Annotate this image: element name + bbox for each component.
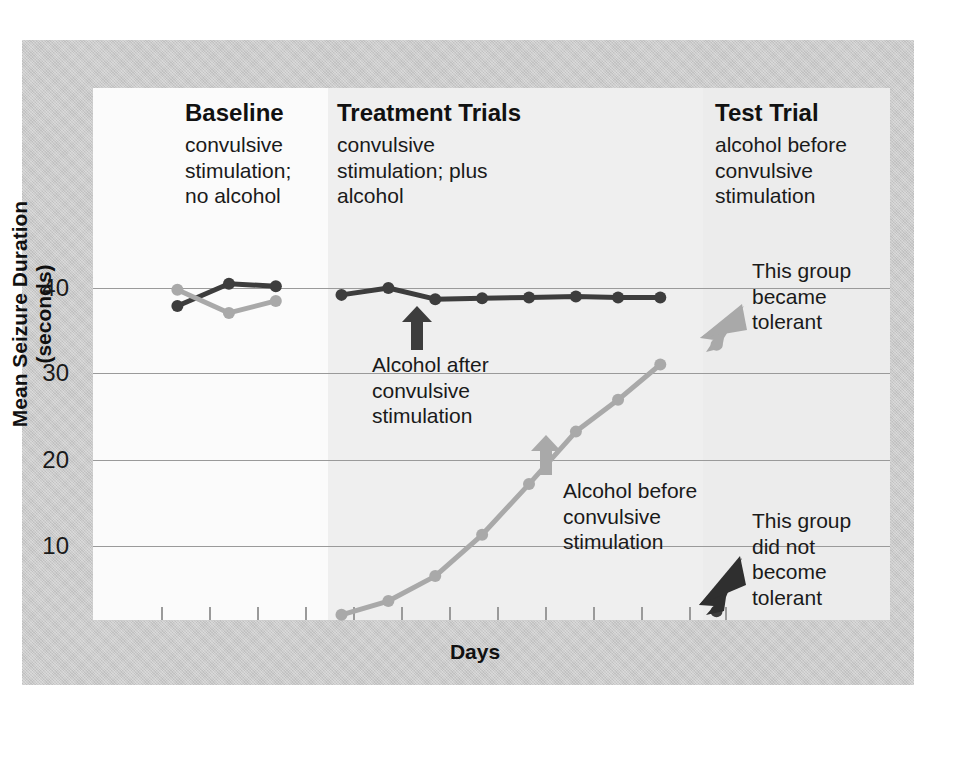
data-point	[270, 280, 282, 292]
data-point	[654, 359, 666, 371]
data-point	[612, 291, 624, 303]
annotation-line4: tolerant	[752, 585, 932, 611]
annotation-became-tolerant: This group became tolerant	[752, 258, 932, 335]
column-sub-line2: stimulation; plus	[337, 158, 567, 184]
column-sub-line3: alcohol	[337, 183, 567, 209]
y-axis-tick-labels: 40 30 20 10	[0, 88, 83, 620]
column-sub-line3: no alcohol	[185, 183, 325, 209]
data-point	[711, 339, 723, 351]
data-point	[270, 295, 282, 307]
y-tick-20: 20	[0, 448, 83, 472]
data-point	[171, 300, 183, 312]
chart-figure: Mean Seizure Duration (seconds) 40 30 20…	[0, 0, 974, 759]
data-point	[335, 289, 347, 301]
annotation-line1: This group	[752, 258, 932, 284]
annotation-line1: Alcohol before	[563, 478, 793, 504]
annotation-line1: Alcohol after	[372, 352, 582, 378]
data-point	[523, 478, 535, 490]
column-sub-line1: convulsive	[337, 132, 567, 158]
annotation-line3: become	[752, 559, 932, 585]
data-point	[570, 291, 582, 303]
y-tick-40: 40	[0, 276, 83, 300]
data-point	[429, 293, 441, 305]
data-point	[711, 605, 723, 617]
annotation-line2: convulsive	[372, 378, 582, 404]
annotation-line3: stimulation	[372, 403, 582, 429]
data-point	[223, 307, 235, 319]
data-point	[382, 282, 394, 294]
column-header-baseline: Baseline convulsive stimulation; no alco…	[185, 100, 325, 209]
annotation-line2: became	[752, 284, 932, 310]
annotation-line2: did not	[752, 534, 932, 560]
annotation-not-tolerant: This group did not become tolerant	[752, 508, 932, 610]
data-point	[612, 394, 624, 406]
column-sub-line1: alcohol before	[715, 132, 905, 158]
column-sub-line2: stimulation;	[185, 158, 325, 184]
annotation-line1: This group	[752, 508, 932, 534]
column-header-treatment: Treatment Trials convulsive stimulation;…	[337, 100, 567, 209]
data-point	[654, 291, 666, 303]
column-heading: Test Trial	[715, 100, 905, 125]
data-point	[523, 291, 535, 303]
data-point	[223, 278, 235, 290]
data-point	[382, 595, 394, 607]
data-point	[429, 570, 441, 582]
column-sub-line1: convulsive	[185, 132, 325, 158]
x-axis-title: Days	[330, 640, 620, 664]
column-heading: Baseline	[185, 100, 325, 125]
y-tick-30: 30	[0, 361, 83, 385]
data-point	[171, 284, 183, 296]
column-heading: Treatment Trials	[337, 100, 567, 125]
data-point	[476, 292, 488, 304]
column-sub-line3: stimulation	[715, 183, 905, 209]
annotation-line3: tolerant	[752, 309, 932, 335]
column-header-test: Test Trial alcohol before convulsive sti…	[715, 100, 905, 209]
annotation-alcohol-after: Alcohol after convulsive stimulation	[372, 352, 582, 429]
y-tick-10: 10	[0, 534, 83, 558]
column-sub-line2: convulsive	[715, 158, 905, 184]
data-point	[335, 609, 347, 621]
data-point	[476, 529, 488, 541]
